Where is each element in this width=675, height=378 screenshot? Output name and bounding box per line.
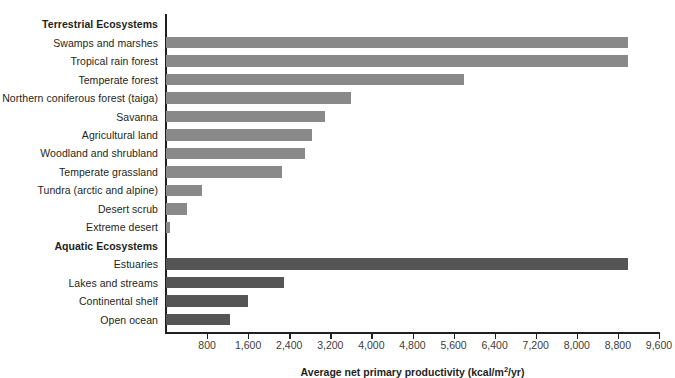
x-tick-label-7200: 7,200 [523, 339, 549, 351]
x-axis-title-exponent: 2 [504, 365, 508, 374]
bar-open-ocean [166, 314, 230, 325]
category-label-swamps-and-marshes: Swamps and marshes [53, 37, 158, 49]
x-tick-label-4800: 4,800 [399, 339, 425, 351]
x-tick-label-8000: 8,000 [564, 339, 590, 351]
x-tick-label-2400: 2,400 [276, 339, 302, 351]
category-label-extreme-desert: Extreme desert [86, 221, 158, 233]
x-tick-label-6400: 6,400 [482, 339, 508, 351]
bar-tundra-arctic-and-alpine [166, 185, 202, 196]
category-label-woodland-and-shrubland: Woodland and shrubland [40, 147, 158, 159]
bar-desert-scrub [166, 203, 187, 214]
bar-temperate-forest [166, 74, 464, 85]
bar-continental-shelf [166, 295, 248, 306]
x-tick-label-9600: 9,600 [646, 339, 672, 351]
category-label-estuaries: Estuaries [114, 258, 158, 270]
category-label-lakes-and-streams: Lakes and streams [68, 277, 158, 289]
category-label-desert-scrub: Desert scrub [98, 203, 158, 215]
group-header-aquatic-ecosystems: Aquatic Ecosystems [54, 240, 158, 252]
x-tick-label-3200: 3,200 [317, 339, 343, 351]
category-label-open-ocean: Open ocean [100, 314, 158, 326]
category-label-tundra-arctic-and-alpine: Tundra (arctic and alpine) [37, 184, 158, 196]
group-header-terrestrial-ecosystems: Terrestrial Ecosystems [42, 18, 158, 30]
x-tick-label-1600: 1,600 [235, 339, 261, 351]
bar-swamps-and-marshes [166, 37, 628, 48]
bar-lakes-and-streams [166, 277, 284, 288]
category-label-agricultural-land: Agricultural land [82, 129, 158, 141]
bar-temperate-grassland [166, 166, 282, 177]
x-tick-label-800: 800 [198, 339, 216, 351]
category-label-continental-shelf: Continental shelf [79, 295, 158, 307]
bar-estuaries [166, 258, 628, 269]
x-tick-label-5600: 5,600 [440, 339, 466, 351]
bar-tropical-rain-forest [166, 55, 628, 66]
bar-northern-coniferous-forest-taiga [166, 92, 351, 103]
plot-area: 8001,6002,4003,2004,0004,8005,6006,4007,… [166, 14, 659, 333]
category-label-savanna: Savanna [116, 111, 158, 123]
x-axis-title: Average net primary productivity (kcal/m… [166, 366, 659, 378]
bar-agricultural-land [166, 129, 312, 140]
net-primary-productivity-bar-chart: Terrestrial EcosystemsSwamps and marshes… [0, 0, 675, 378]
bar-woodland-and-shrubland [166, 148, 305, 159]
bar-savanna [166, 111, 325, 122]
category-label-temperate-grassland: Temperate grassland [59, 166, 158, 178]
x-tick-label-8800: 8,800 [605, 339, 631, 351]
category-label-northern-coniferous-forest-taiga: Northern coniferous forest (taiga) [2, 92, 158, 104]
bar-extreme-desert [166, 222, 170, 233]
x-tick-label-4000: 4,000 [358, 339, 384, 351]
category-label-tropical-rain-forest: Tropical rain forest [70, 55, 158, 67]
category-label-temperate-forest: Temperate forest [78, 74, 158, 86]
